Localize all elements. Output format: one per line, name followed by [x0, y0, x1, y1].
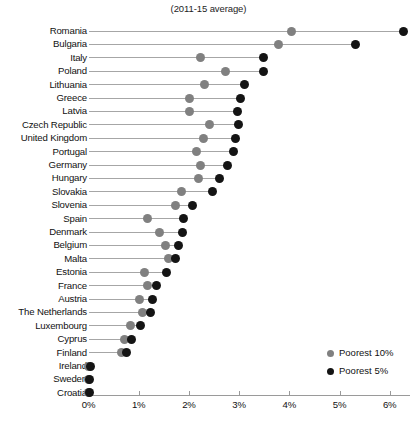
category-label: Croatia: [0, 386, 87, 400]
x-axis-tick: [139, 391, 140, 395]
data-point-poorest-5: [259, 53, 268, 62]
data-point-poorest-5: [233, 107, 242, 116]
data-point-poorest-10: [205, 120, 214, 129]
data-point-poorest-5: [148, 295, 157, 304]
category-label: Romania: [0, 24, 87, 38]
data-point-poorest-5: [86, 362, 95, 371]
data-point-poorest-5: [174, 241, 183, 250]
legend-swatch-gray-icon: [327, 350, 334, 357]
category-label: Belgium: [0, 238, 87, 252]
data-point-poorest-5: [122, 348, 131, 357]
category-label: Lithuania: [0, 78, 87, 92]
chart-row: Belgium: [0, 238, 417, 252]
category-label: Greece: [0, 91, 87, 105]
data-point-poorest-5: [240, 80, 249, 89]
row-connector-line: [89, 272, 167, 273]
category-label: Bulgaria: [0, 37, 87, 51]
category-label: France: [0, 279, 87, 293]
x-axis-tick: [239, 391, 240, 395]
data-point-poorest-5: [127, 335, 136, 344]
chart-row: Romania: [0, 24, 417, 38]
row-connector-line: [89, 44, 356, 45]
data-point-poorest-5: [399, 27, 408, 36]
category-label: Latvia: [0, 104, 87, 118]
data-point-poorest-10: [196, 53, 205, 62]
legend-swatch-black-icon: [327, 368, 334, 375]
data-point-poorest-10: [161, 241, 170, 250]
category-label: Ireland: [0, 359, 87, 373]
scatter-chart: (2011-15 average) RomaniaBulgariaItalyPo…: [0, 0, 417, 430]
category-label: Slovakia: [0, 185, 87, 199]
data-point-poorest-10: [194, 174, 203, 183]
data-point-poorest-5: [178, 228, 187, 237]
chart-row: Bulgaria: [0, 37, 417, 51]
data-point-poorest-5: [215, 174, 224, 183]
legend-item-poorest-10: Poorest 10%: [327, 344, 417, 362]
chart-row: United Kingdom: [0, 131, 417, 145]
x-axis-tick: [390, 391, 391, 395]
category-label: The Netherlands: [0, 305, 87, 319]
data-point-poorest-10: [143, 281, 152, 290]
data-point-poorest-10: [185, 107, 194, 116]
chart-row: The Netherlands: [0, 305, 417, 319]
chart-row: Italy: [0, 51, 417, 65]
chart-row: Hungary: [0, 171, 417, 185]
row-connector-line: [89, 98, 241, 99]
chart-row: Portugal: [0, 145, 417, 159]
x-axis-tick-label: 0%: [69, 399, 109, 410]
x-axis-tick-label: 5%: [320, 399, 360, 410]
data-point-poorest-10: [287, 27, 296, 36]
x-axis-tick: [340, 391, 341, 395]
data-point-poorest-10: [143, 214, 152, 223]
row-connector-line: [89, 124, 239, 125]
data-point-poorest-5: [152, 281, 161, 290]
data-point-poorest-10: [200, 80, 209, 89]
legend-label-poorest-5: Poorest 5%: [339, 362, 388, 380]
data-point-poorest-5: [146, 308, 155, 317]
category-label: Czech Republic: [0, 118, 87, 132]
data-point-poorest-5: [234, 120, 243, 129]
data-point-poorest-10: [171, 201, 180, 210]
data-point-poorest-5: [188, 201, 197, 210]
x-axis-tick-label: 1%: [119, 399, 159, 410]
category-label: Portugal: [0, 145, 87, 159]
data-point-poorest-5: [162, 268, 171, 277]
category-label: Estonia: [0, 265, 87, 279]
category-label: Hungary: [0, 171, 87, 185]
x-axis-tick: [189, 391, 190, 395]
chart-row: Spain: [0, 212, 417, 226]
chart-row: Slovakia: [0, 185, 417, 199]
row-connector-line: [89, 191, 213, 192]
row-connector-line: [89, 165, 228, 166]
x-axis-tick-label: 3%: [219, 399, 259, 410]
row-connector-line: [89, 111, 238, 112]
data-point-poorest-5: [208, 187, 217, 196]
data-point-poorest-5: [259, 67, 268, 76]
data-point-poorest-5: [351, 40, 360, 49]
data-point-poorest-10: [192, 147, 201, 156]
row-connector-line: [89, 151, 234, 152]
data-point-poorest-5: [171, 254, 180, 263]
chart-row: Luxembourg: [0, 319, 417, 333]
row-connector-line: [89, 57, 264, 58]
chart-row: Croatia: [0, 386, 417, 400]
chart-row: Denmark: [0, 225, 417, 239]
category-label: Malta: [0, 252, 87, 266]
x-axis-tick-label: 6%: [370, 399, 410, 410]
category-label: United Kingdom: [0, 131, 87, 145]
category-label: Denmark: [0, 225, 87, 239]
chart-row: Slovenia: [0, 198, 417, 212]
data-point-poorest-10: [185, 94, 194, 103]
data-point-poorest-5: [136, 321, 145, 330]
category-label: Sweden: [0, 372, 87, 386]
data-point-poorest-10: [274, 40, 283, 49]
data-point-poorest-5: [236, 94, 245, 103]
category-label: Poland: [0, 64, 87, 78]
chart-row: Latvia: [0, 104, 417, 118]
row-connector-line: [89, 138, 236, 139]
category-label: Cyprus: [0, 332, 87, 346]
data-point-poorest-5: [179, 214, 188, 223]
data-point-poorest-10: [140, 268, 149, 277]
legend-item-poorest-5: Poorest 5%: [327, 362, 417, 380]
chart-row: Poland: [0, 64, 417, 78]
